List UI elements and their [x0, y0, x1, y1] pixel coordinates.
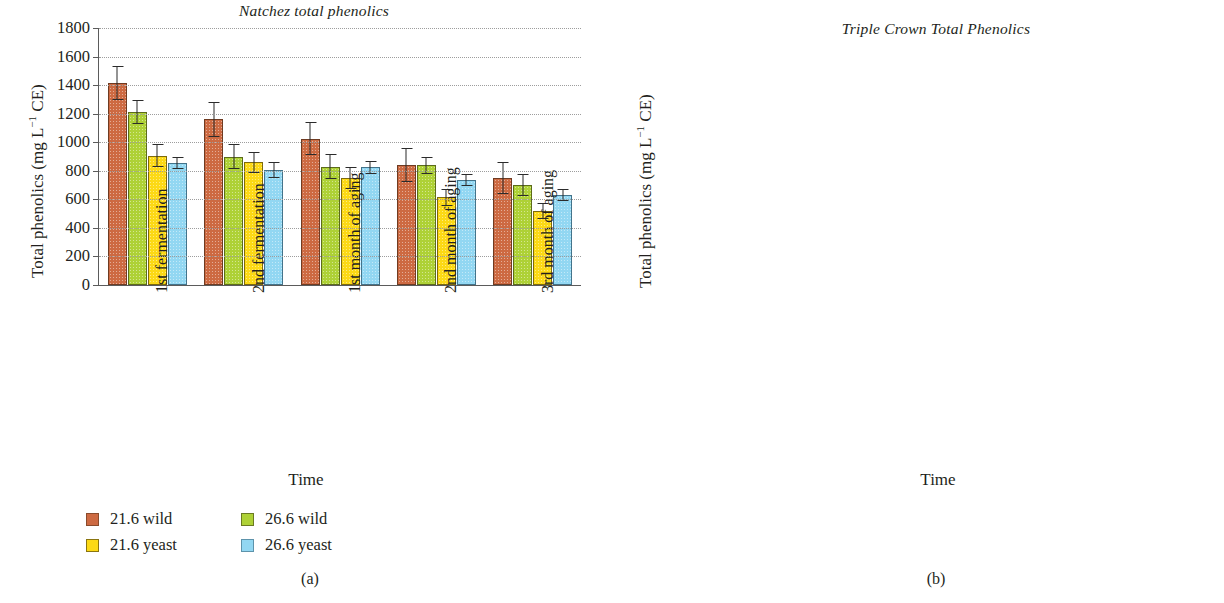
bar[interactable]: [301, 139, 320, 285]
legend-item-21-6-wild[interactable]: 21.6 wild: [86, 506, 241, 532]
y-axis-tick-label: 1400: [42, 75, 90, 95]
bar[interactable]: [321, 167, 340, 286]
error-bar-cap-top: [305, 122, 316, 123]
bar-slot: [321, 28, 340, 285]
legend-item-26-6-wild[interactable]: 26.6 wild: [241, 506, 396, 532]
error-bar: [233, 144, 234, 170]
gridline: [99, 85, 581, 86]
error-bar: [157, 144, 158, 167]
bar-slot: [128, 28, 147, 285]
legend-label: 21.6 yeast: [110, 535, 177, 555]
bar-slot: [204, 28, 223, 285]
bar[interactable]: [224, 157, 243, 286]
error-bar: [522, 174, 523, 195]
error-bar-cap-top: [325, 154, 336, 155]
error-bar: [253, 152, 254, 173]
error-bar-cap-top: [229, 144, 240, 145]
error-bar-cap-top: [112, 66, 123, 67]
y-axis-tick-label: 200: [42, 246, 90, 266]
error-bar-cap-bottom: [518, 195, 529, 196]
error-bar-cap-top: [345, 167, 356, 168]
error-bar-cap-bottom: [249, 172, 260, 173]
legend-item-26-6-yeast[interactable]: 26.6 yeast: [241, 532, 396, 558]
error-bar: [406, 148, 407, 182]
gridline: [99, 57, 581, 58]
error-bar-cap-bottom: [172, 168, 183, 169]
gridline: [99, 28, 581, 29]
y-axis-title-b: Total phenolics (mg L−1 CE): [634, 94, 656, 288]
error-bar: [177, 157, 178, 170]
legend-label: 26.6 wild: [265, 509, 327, 529]
error-bar-cap-top: [518, 174, 529, 175]
bar-slot: [417, 28, 436, 285]
y-axis-tick-label: 1000: [42, 132, 90, 152]
plot-area-a: 1st fermentation2nd fermentation1st mont…: [98, 28, 581, 286]
legend-item-21-6-yeast[interactable]: 21.6 yeast: [86, 532, 241, 558]
bar[interactable]: [417, 165, 436, 285]
error-bar-cap-bottom: [401, 181, 412, 182]
error-bar-cap-top: [152, 144, 163, 145]
y-axis-tick: [93, 57, 99, 58]
legend-label: 21.6 wild: [110, 509, 172, 529]
error-bar: [310, 122, 311, 155]
y-axis-tick: [93, 199, 99, 200]
legend-label: 26.6 yeast: [265, 535, 332, 555]
y-axis-title-exponent: −1: [634, 126, 646, 138]
error-bar: [466, 174, 467, 187]
error-bar-cap-bottom: [421, 173, 432, 174]
bar-group: [292, 28, 388, 285]
y-axis-title-text: Total phenolics (mg L: [636, 138, 655, 288]
y-axis-tick-label: 0: [42, 275, 90, 295]
chart-panel-b: Triple Crown Total Phenolics Total pheno…: [612, 0, 1224, 603]
bar-slot: [108, 28, 127, 285]
error-bar-cap-top: [558, 189, 569, 190]
error-bar-cap-top: [365, 161, 376, 162]
y-axis-tick: [93, 28, 99, 29]
error-bar-cap-top: [209, 102, 220, 103]
error-bar-cap-top: [461, 174, 472, 175]
chart-title-b: Triple Crown Total Phenolics: [630, 20, 1224, 38]
bar-group: [485, 28, 581, 285]
bar-slot: [397, 28, 416, 285]
y-axis-tick-label: 1600: [42, 46, 90, 66]
bar-slot: [301, 28, 320, 285]
x-axis-title-a: Time: [0, 470, 612, 490]
y-axis-tick: [93, 228, 99, 229]
x-axis-categories-a: 1st fermentation2nd fermentation1st mont…: [99, 285, 581, 455]
bar-group: [99, 28, 195, 285]
bar-groups-a: [99, 28, 581, 285]
bar-group: [388, 28, 484, 285]
gridline: [99, 142, 581, 143]
panel-caption-b: (b): [630, 570, 1224, 588]
error-bar-cap-bottom: [229, 168, 240, 169]
gridline: [99, 228, 581, 229]
bar[interactable]: [397, 165, 416, 285]
x-axis-category-label: 1st month of aging: [346, 173, 364, 293]
x-axis-title-b: Time: [632, 470, 1224, 490]
bar[interactable]: [493, 178, 512, 285]
y-axis-tick-label: 1800: [42, 18, 90, 38]
bar-slot: [513, 28, 532, 285]
error-bar-cap-bottom: [325, 178, 336, 179]
y-axis-tick: [93, 285, 99, 286]
bar-group: [195, 28, 291, 285]
error-bar-cap-bottom: [365, 173, 376, 174]
bar-slot: [493, 28, 512, 285]
error-bar: [137, 100, 138, 124]
error-bar: [502, 162, 503, 193]
error-bar-cap-bottom: [305, 154, 316, 155]
y-axis-tick: [93, 142, 99, 143]
x-axis-category-label: 1st fermentation: [153, 189, 171, 293]
error-bar-cap-top: [132, 100, 143, 101]
y-axis-tick-label: 600: [42, 189, 90, 209]
y-axis-tick-label: 1200: [42, 103, 90, 123]
error-bar-cap-top: [401, 148, 412, 149]
error-bar-cap-bottom: [498, 193, 509, 194]
y-axis-tick-label: 800: [42, 160, 90, 180]
legend-swatch-icon: [86, 539, 99, 552]
x-axis-category-label: 2nd month of aging: [442, 167, 460, 293]
error-bar: [330, 154, 331, 180]
error-bar-cap-bottom: [269, 177, 280, 178]
y-axis-tick: [93, 85, 99, 86]
bar[interactable]: [204, 119, 223, 285]
